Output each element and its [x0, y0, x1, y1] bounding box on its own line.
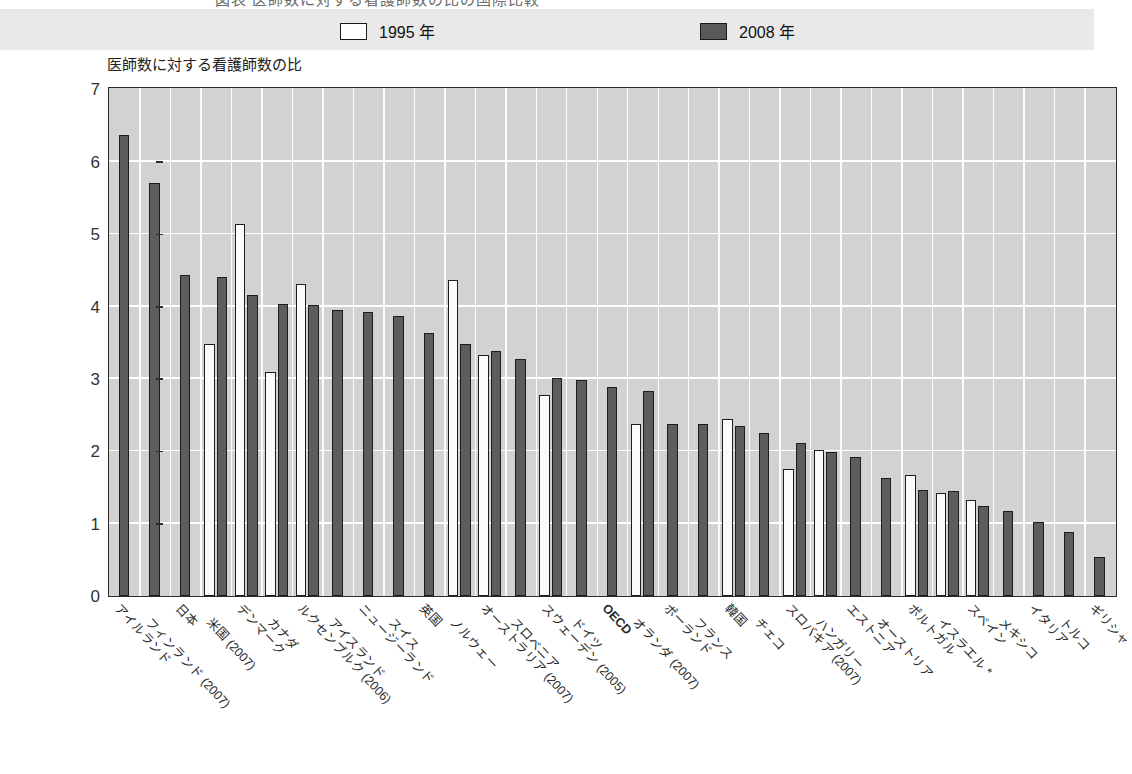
- x-axis-labels: アイルランドフィンランド (2007)日本米国 (2007)デンマークカナダルク…: [108, 600, 1117, 774]
- bar-2008: [826, 452, 837, 596]
- bar-2008: [491, 351, 502, 596]
- y-tick-mark: [156, 306, 163, 308]
- bar-1995: [235, 224, 246, 596]
- bar-1995: [936, 493, 947, 596]
- y-tick-label: 1: [66, 515, 100, 535]
- bar-2008: [881, 478, 892, 596]
- bar-2008: [1033, 522, 1044, 596]
- bar-2008: [735, 426, 746, 596]
- bar-2008: [278, 304, 289, 596]
- bar-1995: [783, 469, 794, 596]
- bar-2008: [759, 433, 770, 596]
- y-tick-mark: [156, 451, 163, 453]
- plot-region: [108, 87, 1117, 597]
- bar-2008: [149, 183, 160, 596]
- y-tick-mark: [156, 234, 163, 236]
- bar-2008: [363, 312, 374, 596]
- bar-1995: [814, 450, 825, 596]
- bar-2008: [460, 344, 471, 596]
- bar-1995: [265, 372, 276, 596]
- bar-2008: [978, 506, 989, 596]
- bar-1995: [905, 475, 916, 596]
- bar-1995: [478, 355, 489, 596]
- bar-1995: [448, 280, 459, 596]
- bar-2008: [667, 424, 678, 596]
- y-tick-label: 4: [66, 298, 100, 318]
- bar-1995: [631, 424, 642, 596]
- x-tick-label: 英国: [417, 602, 444, 630]
- bar-2008: [515, 359, 526, 596]
- bar-series-container: [109, 88, 1116, 596]
- y-tick-mark: [156, 523, 163, 525]
- bar-2008: [698, 424, 709, 596]
- bar-2008: [247, 295, 258, 596]
- bar-2008: [1064, 532, 1075, 596]
- bar-1995: [296, 284, 307, 596]
- y-tick-label: 6: [66, 153, 100, 173]
- x-tick-label: ギリシャ: [1087, 602, 1132, 649]
- y-axis-ticks: 01234567: [56, 87, 100, 597]
- bar-2008: [180, 275, 191, 596]
- y-tick-mark: [156, 161, 163, 163]
- bar-2008: [948, 491, 959, 596]
- bar-2008: [1003, 511, 1014, 596]
- bar-2008: [796, 443, 807, 596]
- x-tick-label: 日本: [173, 602, 200, 630]
- bar-2008: [119, 135, 130, 596]
- bar-2008: [217, 277, 228, 596]
- y-tick-label: 0: [66, 587, 100, 607]
- bar-2008: [643, 391, 654, 596]
- bar-2008: [607, 387, 618, 596]
- bar-1995: [539, 395, 550, 596]
- bar-2008: [552, 378, 563, 596]
- bar-2008: [576, 380, 587, 596]
- x-tick-label: OECD: [600, 602, 634, 637]
- x-tick-label: 韓国: [722, 602, 749, 630]
- bar-2008: [424, 333, 435, 596]
- y-tick-label: 3: [66, 370, 100, 390]
- y-tick-label: 5: [66, 225, 100, 245]
- bar-2008: [1094, 557, 1105, 596]
- bar-2008: [393, 316, 404, 596]
- bar-2008: [308, 305, 319, 596]
- y-tick-label: 2: [66, 442, 100, 462]
- y-tick-label: 7: [66, 80, 100, 100]
- x-tick-label: チェコ: [752, 616, 788, 653]
- bar-1995: [204, 344, 215, 596]
- bar-1995: [966, 500, 977, 596]
- y-tick-mark: [156, 378, 163, 380]
- bar-2008: [850, 457, 861, 596]
- bar-2008: [918, 490, 929, 596]
- bar-1995: [722, 419, 733, 596]
- bar-2008: [332, 310, 343, 596]
